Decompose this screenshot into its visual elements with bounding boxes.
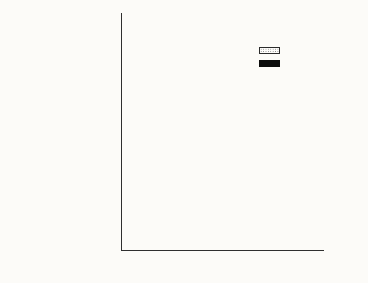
y-axis-line — [121, 13, 122, 250]
legend-item-outdoor — [259, 47, 286, 54]
outdoor-activity-swatch-icon — [259, 47, 280, 54]
seasonality-bar-chart — [0, 0, 368, 283]
x-axis-line — [121, 250, 324, 251]
legend-item-indoor — [259, 60, 286, 67]
indoor-activity-swatch-icon — [259, 60, 280, 67]
legend — [259, 47, 286, 73]
